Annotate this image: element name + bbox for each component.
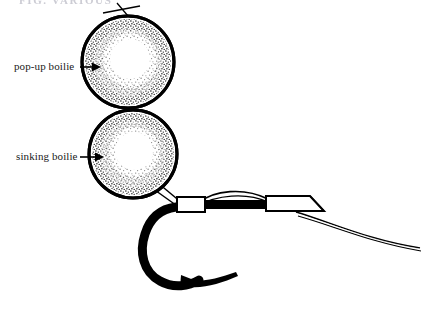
label-pop-up-boilie: pop-up boilie [14,60,74,72]
fishing-hook [142,207,238,288]
upper-boilie [74,8,186,120]
right-sleeve [266,196,324,211]
trailing-mainline [296,212,421,251]
figure-canvas: FIG. VARIOUS pop-up boilie sinking boili… [0,0,429,312]
page-header-caption: FIG. VARIOUS [19,0,112,6]
label-sinking-boilie: sinking boilie [16,150,78,162]
